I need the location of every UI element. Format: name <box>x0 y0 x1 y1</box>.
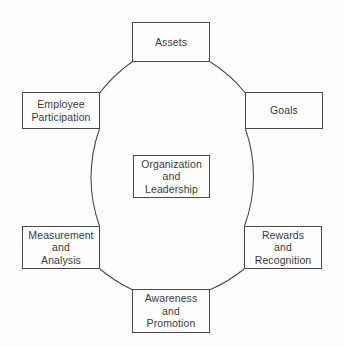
node-rewards-and-recognition[interactable]: Rewards and Recognition <box>244 226 322 269</box>
cycle-diagram: Assets Goals Rewards and Recognition Awa… <box>0 0 344 347</box>
node-employee-participation[interactable]: Employee Participation <box>22 92 100 129</box>
node-measurement-and-analysis[interactable]: Measurement and Analysis <box>22 226 100 269</box>
node-employee-participation-label: Employee Participation <box>31 98 90 123</box>
arc-awareness-to-measurement <box>100 269 132 290</box>
arc-goals-to-rewards <box>245 129 254 226</box>
arc-rewards-to-awareness <box>211 269 245 290</box>
node-goals[interactable]: Goals <box>245 92 323 129</box>
node-goals-label: Goals <box>270 104 298 117</box>
arc-measurement-to-employee <box>91 129 99 226</box>
node-awareness-and-promotion[interactable]: Awareness and Promotion <box>132 289 210 333</box>
node-awareness-and-promotion-label: Awareness and Promotion <box>145 292 198 330</box>
node-organization-and-leadership-label: Organization and Leadership <box>141 158 202 196</box>
node-organization-and-leadership[interactable]: Organization and Leadership <box>133 155 210 198</box>
node-assets[interactable]: Assets <box>132 22 210 62</box>
node-assets-label: Assets <box>155 36 187 49</box>
node-measurement-and-analysis-label: Measurement and Analysis <box>28 229 93 267</box>
arc-assets-to-goals <box>211 62 246 93</box>
arc-employee-to-assets <box>100 62 132 93</box>
node-rewards-and-recognition-label: Rewards and Recognition <box>255 229 312 267</box>
